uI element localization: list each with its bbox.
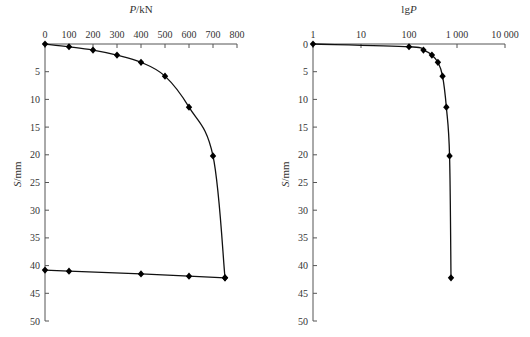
data-point-marker	[443, 104, 449, 111]
x-tick-label: 10 000	[491, 29, 519, 40]
series-loading	[310, 40, 454, 281]
y-tick-label: 15	[298, 122, 308, 133]
series-line	[313, 44, 451, 278]
x-tick-label: 500	[158, 29, 173, 40]
x-tick-label: 700	[206, 29, 221, 40]
x-tick-label: 1 000	[446, 29, 469, 40]
p-s-chart: 0100200300400500600700800510152025303540…	[11, 3, 245, 327]
y-tick-label: 20	[298, 149, 308, 160]
x-tick-label: 300	[110, 29, 125, 40]
x-tick-label: 400	[134, 29, 149, 40]
series-line	[45, 44, 225, 278]
x-tick-label: 1	[311, 29, 316, 40]
y-axis-title: S/mm	[279, 161, 291, 187]
series-loading	[42, 40, 228, 281]
x-tick-label: 0	[43, 29, 48, 40]
y-tick-label: 25	[30, 177, 40, 188]
chart-canvas: 0100200300400500600700800510152025303540…	[0, 0, 530, 337]
data-point-marker	[446, 152, 452, 159]
y-tick-label: 50	[30, 316, 40, 327]
x-tick-label: 10	[356, 29, 366, 40]
y-tick-label: 30	[298, 205, 308, 216]
data-point-marker	[42, 266, 48, 273]
x-axis-title: P/kN	[128, 3, 152, 15]
x-tick-label: 200	[86, 29, 101, 40]
y-tick-label: 35	[30, 232, 40, 243]
x-tick-label: 800	[230, 29, 245, 40]
data-point-marker	[66, 268, 72, 275]
y-tick-label: 10	[298, 94, 308, 105]
y-tick-label: 50	[298, 316, 308, 327]
data-point-marker	[114, 51, 120, 58]
y-tick-label: 5	[35, 66, 40, 77]
y-tick-label: 10	[30, 94, 40, 105]
data-point-marker	[439, 73, 445, 80]
y-tick-label: 45	[30, 288, 40, 299]
series-unloading	[42, 266, 228, 281]
y-tick-label: 5	[303, 66, 308, 77]
data-point-marker	[210, 152, 216, 159]
y-tick-label: 30	[30, 205, 40, 216]
figure: 0100200300400500600700800510152025303540…	[0, 0, 530, 337]
y-axis-title: S/mm	[11, 161, 23, 187]
y-tick-label: 40	[298, 260, 308, 271]
data-point-marker	[90, 46, 96, 53]
y-tick-label: 45	[298, 288, 308, 299]
x-tick-label: 600	[182, 29, 197, 40]
data-point-marker	[186, 273, 192, 280]
data-point-marker	[310, 40, 316, 47]
data-point-marker	[222, 274, 228, 281]
data-point-marker	[42, 40, 48, 47]
data-point-marker	[138, 270, 144, 277]
x-tick-label: 100	[62, 29, 77, 40]
data-point-marker	[138, 59, 144, 66]
lgp-s-chart: 1101001 00010 00005101520253035404550lgP…	[279, 3, 519, 327]
x-axis-title: lgP	[401, 3, 417, 15]
y-tick-label: 15	[30, 122, 40, 133]
y-tick-label: 20	[30, 149, 40, 160]
y-tick-label: 0	[303, 39, 308, 50]
y-tick-label: 40	[30, 260, 40, 271]
data-point-marker	[448, 274, 454, 281]
x-tick-label: 100	[402, 29, 417, 40]
y-tick-label: 25	[298, 177, 308, 188]
y-tick-label: 35	[298, 232, 308, 243]
